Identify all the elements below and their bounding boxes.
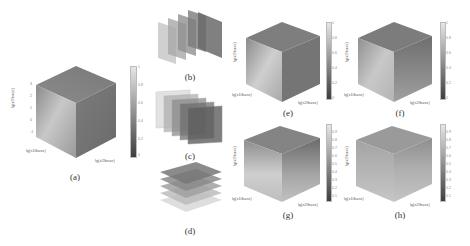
colorbar-tick: 0.4 [332, 170, 337, 174]
colorbar-tick: 0.1 [446, 194, 451, 198]
tick: -1 [30, 130, 33, 134]
tick: 1 [30, 106, 32, 110]
slices-plot-c [150, 82, 230, 162]
colorbar-tick: 0.6 [446, 154, 451, 158]
cube-plot-h [344, 122, 470, 246]
colorbar-tick: 0.4 [446, 66, 451, 70]
axis-label-x3: lg(x3/base) [10, 88, 15, 108]
colorbar-tick: 1 [138, 65, 140, 69]
axis-label-x1: lg(x1/base) [232, 92, 252, 97]
colorbar-tick: 0 [138, 153, 140, 157]
axis-label-x1: lg(x1/base) [26, 148, 46, 153]
panel-label-f: (f) [380, 108, 420, 118]
colorbar-tick: 0.8 [332, 36, 337, 40]
colorbar-tick: 0.8 [332, 138, 337, 142]
colorbar-e [326, 22, 332, 100]
colorbar-tick: 0.8 [138, 83, 143, 87]
panel-c: (c) [150, 82, 230, 162]
cube-plot-a [0, 0, 150, 246]
axis-label-x1: lg(x1/base) [344, 196, 364, 201]
axis-label-x3: lg(x3/base) [344, 42, 349, 62]
panel-b: (b) [150, 0, 230, 85]
panel-label-d: (d) [170, 226, 210, 236]
colorbar-tick: 0.2 [446, 186, 451, 190]
colorbar-tick: 0.9 [332, 130, 337, 134]
colorbar-tick: 0.6 [138, 101, 143, 105]
panel-label-a: (a) [55, 172, 95, 182]
colorbar-tick: 1 [332, 21, 334, 25]
colorbar-tick: 0.1 [332, 194, 337, 198]
colorbar-tick: 0.3 [446, 178, 451, 182]
panel-label-b: (b) [170, 72, 210, 82]
panel-label-g: (g) [268, 210, 308, 220]
colorbar-tick: 0.2 [332, 81, 337, 85]
axis-label-x1: lg(x1/base) [344, 92, 364, 97]
colorbar-tick: 0.2 [138, 137, 143, 141]
colorbar-tick: 0.2 [446, 81, 451, 85]
colorbar-a [130, 66, 137, 158]
colorbar-tick: 0.5 [332, 162, 337, 166]
axis-label-x3: lg(x3/base) [232, 42, 237, 62]
axis-label-x1: lg(x1/base) [232, 196, 252, 201]
panel-h: lg(x3/base) lg(x1/base) lg(x2/base) 0.9 … [344, 122, 470, 246]
colorbar-tick: 0.7 [332, 146, 337, 150]
colorbar-tick: 0.8 [446, 138, 451, 142]
colorbar-tick: 0.2 [332, 186, 337, 190]
colorbar-tick: 0.6 [446, 51, 451, 55]
colorbar-tick: 0 [446, 96, 448, 100]
colorbar-f [440, 22, 446, 100]
panel-e: lg(x3/base) lg(x1/base) lg(x2/base) 1 0.… [232, 0, 344, 122]
colorbar-tick: 0.6 [332, 51, 337, 55]
axis-label-x3: lg(x3/base) [232, 146, 237, 166]
cube-plot-f [344, 0, 470, 122]
colorbar-tick: 0.4 [446, 170, 451, 174]
axis-label-x2: lg(x2/base) [298, 100, 318, 105]
colorbar-tick: 0.3 [332, 178, 337, 182]
panel-a: 3 2 1 0 -1 lg(x3/base) lg(x1/base) lg(x2… [0, 0, 150, 246]
colorbar-tick: 1 [446, 21, 448, 25]
panel-d: (d) [150, 160, 230, 246]
panel-f: lg(x3/base) lg(x1/base) lg(x2/base) 1 0.… [344, 0, 470, 122]
colorbar-tick: 0.4 [332, 66, 337, 70]
axis-label-x2: lg(x2/base) [410, 100, 430, 105]
axis-label-x2: lg(x2/base) [298, 202, 318, 207]
colorbar-tick: 0.4 [138, 119, 143, 123]
axis-label-x2: lg(x2/base) [410, 202, 430, 207]
colorbar-tick: 0 [332, 96, 334, 100]
colorbar-tick: 0.6 [332, 154, 337, 158]
panel-g: lg(x3/base) lg(x1/base) lg(x2/base) 0.9 … [232, 122, 344, 246]
axis-label-x3: lg(x3/base) [344, 146, 349, 166]
tick: 3 [30, 82, 32, 86]
tick: 0 [30, 118, 32, 122]
panel-label-h: (h) [380, 210, 420, 220]
tick: 2 [30, 94, 32, 98]
panel-label-e: (e) [268, 108, 308, 118]
colorbar-tick: 0.8 [446, 36, 451, 40]
colorbar-tick: 0.7 [446, 146, 451, 150]
colorbar-tick: 0.5 [446, 162, 451, 166]
axis-label-x2: lg(x2/base) [95, 158, 115, 163]
colorbar-tick: 0.9 [446, 130, 451, 134]
